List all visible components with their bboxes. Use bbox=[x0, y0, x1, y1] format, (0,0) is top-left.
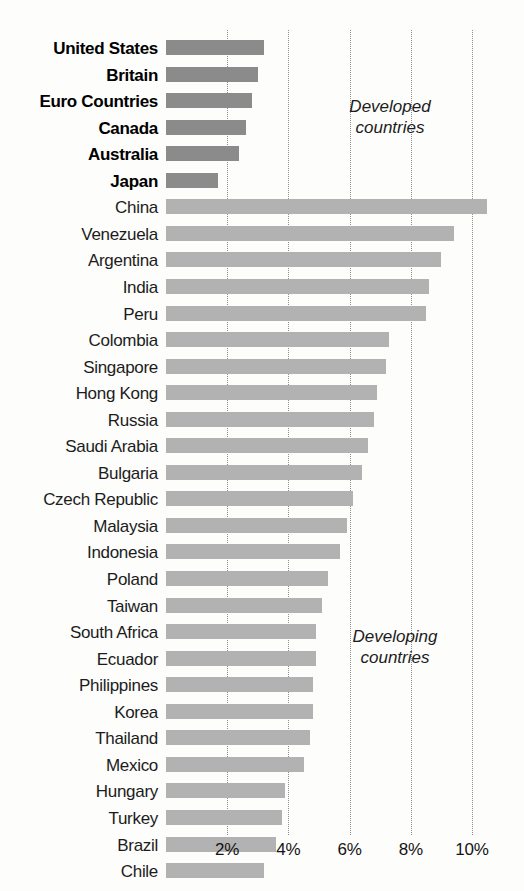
bar-label: Czech Republic bbox=[43, 489, 158, 510]
bar-label: Poland bbox=[107, 569, 158, 590]
bar-label: Thailand bbox=[95, 728, 158, 749]
bar-label: Chile bbox=[121, 861, 158, 882]
bar-row: Poland bbox=[0, 569, 524, 596]
x-tick-label: 8% bbox=[399, 840, 423, 860]
bar-label: United States bbox=[53, 38, 158, 59]
bar-label: Japan bbox=[110, 171, 158, 192]
bar-label: Malaysia bbox=[93, 516, 158, 537]
bar bbox=[166, 173, 218, 188]
bar bbox=[166, 412, 374, 427]
bar-label: Taiwan bbox=[107, 596, 158, 617]
bar bbox=[166, 120, 246, 135]
bar-row: Argentina bbox=[0, 250, 524, 277]
bar bbox=[166, 598, 322, 613]
plot-area: United StatesBritainEuro CountriesCanada… bbox=[0, 0, 524, 891]
x-tick-label: 10% bbox=[455, 840, 488, 860]
bar bbox=[166, 332, 389, 347]
bar bbox=[166, 651, 316, 666]
bar bbox=[166, 199, 487, 214]
bar-label: Russia bbox=[108, 410, 158, 431]
bar-label: Venezuela bbox=[81, 224, 158, 245]
bar-row: Singapore bbox=[0, 357, 524, 384]
bar-row: Korea bbox=[0, 702, 524, 729]
bar bbox=[166, 757, 304, 772]
bar-row: Philippines bbox=[0, 675, 524, 702]
bar bbox=[166, 279, 429, 294]
bar-label: South Africa bbox=[70, 622, 158, 643]
bar-row: United States bbox=[0, 38, 524, 65]
bar-row: Taiwan bbox=[0, 596, 524, 623]
bar-label: Hong Kong bbox=[76, 383, 158, 404]
bar-label: Singapore bbox=[83, 357, 158, 378]
bar-row: Mexico bbox=[0, 755, 524, 782]
bar-label: Philippines bbox=[79, 675, 158, 696]
bar bbox=[166, 359, 386, 374]
bar-label: Bulgaria bbox=[98, 463, 158, 484]
bar-row: Thailand bbox=[0, 728, 524, 755]
bar-label: Colombia bbox=[89, 330, 158, 351]
bar bbox=[166, 40, 264, 55]
bar bbox=[166, 810, 282, 825]
bar bbox=[166, 67, 258, 82]
bar bbox=[166, 783, 285, 798]
bar bbox=[166, 226, 454, 241]
bar-label: Argentina bbox=[88, 250, 158, 271]
bar-row: Hong Kong bbox=[0, 383, 524, 410]
bar bbox=[166, 624, 316, 639]
bar-label: Euro Countries bbox=[39, 91, 158, 112]
bar-label: Britain bbox=[106, 65, 158, 86]
bar-label: Turkey bbox=[108, 808, 158, 829]
bar-label: Australia bbox=[88, 144, 158, 165]
bar bbox=[166, 146, 239, 161]
bar-label: Canada bbox=[98, 118, 158, 139]
bar bbox=[166, 438, 368, 453]
bar bbox=[166, 306, 426, 321]
bar-row: Japan bbox=[0, 171, 524, 198]
bar-label: Brazil bbox=[117, 835, 158, 856]
bar-row: Hungary bbox=[0, 781, 524, 808]
bar bbox=[166, 704, 313, 719]
bar-row: Malaysia bbox=[0, 516, 524, 543]
bar-row: Peru bbox=[0, 304, 524, 331]
bar-label: Korea bbox=[114, 702, 158, 723]
bar bbox=[166, 385, 377, 400]
bar-row: Russia bbox=[0, 410, 524, 437]
x-tick-label: 4% bbox=[276, 840, 300, 860]
annotation-developed-countries: Developed countries bbox=[330, 96, 450, 138]
bar-row: Colombia bbox=[0, 330, 524, 357]
bar bbox=[166, 93, 252, 108]
x-tick-label: 6% bbox=[338, 840, 362, 860]
bar-row: China bbox=[0, 197, 524, 224]
annotation-developing-countries: Developing countries bbox=[330, 626, 460, 668]
bar-label: Indonesia bbox=[87, 542, 158, 563]
bar bbox=[166, 863, 264, 878]
bar-row: Bulgaria bbox=[0, 463, 524, 490]
bar-label: Saudi Arabia bbox=[65, 436, 158, 457]
bar-label: Hungary bbox=[96, 781, 158, 802]
bar bbox=[166, 252, 441, 267]
bar-row: Turkey bbox=[0, 808, 524, 835]
bar bbox=[166, 544, 340, 559]
bar-row: Brazil bbox=[0, 835, 524, 862]
bar-label: India bbox=[123, 277, 158, 298]
bar-row: Chile bbox=[0, 861, 524, 888]
bar-label: Mexico bbox=[106, 755, 158, 776]
bar bbox=[166, 677, 313, 692]
bar bbox=[166, 491, 353, 506]
bar-row: Indonesia bbox=[0, 542, 524, 569]
bar-row: Saudi Arabia bbox=[0, 436, 524, 463]
bar-label: Ecuador bbox=[97, 649, 158, 670]
bar bbox=[166, 571, 328, 586]
bar-row: Venezuela bbox=[0, 224, 524, 251]
bar-label: Peru bbox=[123, 304, 158, 325]
bar-row: India bbox=[0, 277, 524, 304]
bar-label: China bbox=[115, 197, 158, 218]
bar-row: Australia bbox=[0, 144, 524, 171]
bar bbox=[166, 518, 347, 533]
bar-chart: United StatesBritainEuro CountriesCanada… bbox=[0, 0, 524, 891]
bar-row: Britain bbox=[0, 65, 524, 92]
bar-row: Czech Republic bbox=[0, 489, 524, 516]
bar bbox=[166, 465, 362, 480]
bar bbox=[166, 730, 310, 745]
x-tick-label: 2% bbox=[215, 840, 239, 860]
